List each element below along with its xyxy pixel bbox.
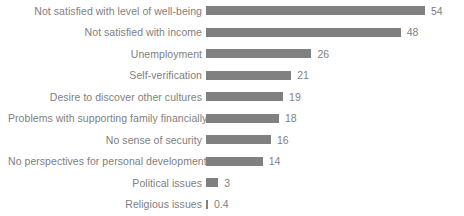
bar-container: 54 (206, 0, 443, 22)
category-label: Religious issues (8, 198, 202, 210)
bar-container: 3 (206, 172, 230, 194)
bar-segment (206, 71, 291, 80)
bar-row: No perspectives for personal development… (0, 151, 464, 173)
bar-segment (206, 157, 263, 166)
category-label: Self-verification (8, 69, 202, 81)
bar-segment (206, 28, 401, 37)
category-label: Not satisfied with level of well-being (8, 5, 202, 17)
bar-row: Self-verification21 (0, 65, 464, 87)
bar-value-label: 14 (269, 155, 281, 167)
bar-value-label: 0.4 (214, 198, 229, 210)
bar-value-label: 26 (317, 48, 329, 60)
category-label: No perspectives for personal development (8, 155, 202, 167)
bar-row: Desire to discover other cultures19 (0, 86, 464, 108)
bar-row: Political issues3 (0, 172, 464, 194)
bar-chart: Not satisfied with level of well-being54… (0, 0, 464, 215)
bar-value-label: 3 (224, 177, 230, 189)
bar-container: 0.4 (206, 194, 229, 216)
category-label: Unemployment (8, 48, 202, 60)
bar-segment (206, 178, 218, 187)
bar-container: 26 (206, 43, 329, 65)
bar-value-label: 16 (277, 134, 289, 146)
bar-row: Problems with supporting family financia… (0, 108, 464, 130)
bar-row: Religious issues0.4 (0, 194, 464, 216)
bar-row: No sense of security16 (0, 129, 464, 151)
bar-value-label: 21 (297, 69, 309, 81)
bar-container: 16 (206, 129, 289, 151)
bar-container: 14 (206, 151, 280, 173)
bar-container: 21 (206, 65, 309, 87)
bar-segment (206, 6, 425, 15)
bar-row: Not satisfied with income48 (0, 22, 464, 44)
bar-container: 48 (206, 22, 418, 44)
bar-container: 18 (206, 108, 297, 130)
bar-segment (206, 135, 271, 144)
bar-value-label: 19 (289, 91, 301, 103)
category-label: Not satisfied with income (8, 26, 202, 38)
category-label: Desire to discover other cultures (8, 91, 202, 103)
category-label: No sense of security (8, 134, 202, 146)
bar-segment (206, 114, 279, 123)
category-label: Political issues (8, 177, 202, 189)
bar-value-label: 54 (431, 5, 443, 17)
bar-value-label: 18 (285, 112, 297, 124)
category-label: Problems with supporting family financia… (8, 112, 202, 124)
bar-row: Not satisfied with level of well-being54 (0, 0, 464, 22)
bar-row: Unemployment26 (0, 43, 464, 65)
bar-segment (206, 92, 283, 101)
bar-value-label: 48 (407, 26, 419, 38)
plot-area: Not satisfied with level of well-being54… (0, 0, 464, 215)
bar-container: 19 (206, 86, 301, 108)
bar-segment (206, 49, 311, 58)
bar-segment (206, 200, 208, 209)
